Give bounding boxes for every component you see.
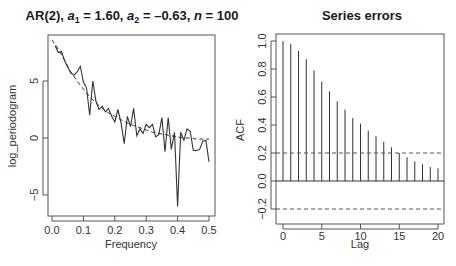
- periodogram-title: AR(2), a1 = 1.60, a2 = –0.63, n = 100: [26, 8, 239, 25]
- y-tick-label: −5: [28, 189, 40, 202]
- periodogram-plot-frame: [48, 35, 215, 216]
- x-tick-label: 0.3: [139, 224, 154, 236]
- y-tick-label: 0.6: [256, 89, 268, 104]
- y-tick-label: 1.0: [256, 33, 268, 48]
- acf-y-axis: −0.20.00.20.40.60.81.0: [256, 33, 276, 220]
- periodogram-x-label: Frequency: [105, 238, 157, 250]
- x-tick-label: 0.5: [201, 224, 216, 236]
- acf-x-label: Lag: [351, 238, 369, 250]
- acf-panel: Series errors 05101520 −0.20.00.20.40.60…: [234, 8, 444, 250]
- y-tick-label: 0.4: [256, 117, 268, 132]
- y-tick-label: 5: [28, 78, 40, 84]
- acf-title: Series errors: [322, 8, 402, 23]
- y-tick-label: 0.2: [256, 145, 268, 160]
- x-tick-label: 0.2: [107, 224, 122, 236]
- x-tick-label: 0.4: [170, 224, 185, 236]
- x-tick-label: 0.0: [44, 224, 59, 236]
- periodogram-x-axis: 0.00.10.20.30.40.5: [44, 216, 216, 236]
- acf-bars: [283, 41, 438, 181]
- periodogram-y-axis: −505: [28, 78, 48, 201]
- figure: AR(2), a1 = 1.60, a2 = –0.63, n = 100 0.…: [0, 0, 456, 266]
- x-tick-label: 0: [280, 230, 286, 242]
- x-tick-label: 0.1: [76, 224, 91, 236]
- y-tick-label: −0.2: [256, 198, 268, 220]
- y-tick-label: 0: [28, 135, 40, 141]
- x-tick-label: 5: [319, 230, 325, 242]
- x-tick-label: 20: [432, 230, 444, 242]
- y-tick-label: 0.8: [256, 61, 268, 76]
- periodogram-y-label: log_periodogram: [6, 85, 18, 168]
- y-tick-label: 0.0: [256, 173, 268, 188]
- sample-periodogram-line: [55, 46, 209, 207]
- acf-y-label: ACF: [234, 119, 246, 141]
- x-tick-label: 15: [393, 230, 405, 242]
- periodogram-panel: AR(2), a1 = 1.60, a2 = –0.63, n = 100 0.…: [6, 8, 238, 250]
